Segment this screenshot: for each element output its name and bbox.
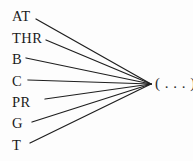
connector-line-g <box>32 84 151 122</box>
node-label-g: G <box>12 116 23 131</box>
node-label-pr: PR <box>12 95 31 110</box>
diagram-canvas: ATTHRBCPRGT ( . . . ) <box>0 0 193 161</box>
node-label-at: AT <box>12 9 31 24</box>
node-label-t: T <box>12 138 21 153</box>
node-label-thr: THR <box>12 31 42 46</box>
ellipsis-target-node: ( . . . ) <box>155 76 193 91</box>
node-label-b: B <box>12 52 22 67</box>
connector-line-thr <box>46 40 151 84</box>
connector-line-at <box>36 19 151 84</box>
node-label-c: C <box>12 74 22 89</box>
